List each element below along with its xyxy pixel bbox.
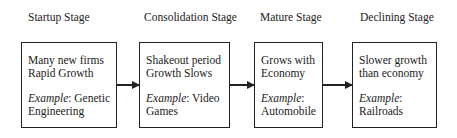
- example-label: Example: [146, 92, 186, 104]
- stage-desc-line: Many new firms: [28, 54, 116, 67]
- stage-title-consolidation: Consolidation Stage: [144, 11, 237, 23]
- stage-desc-line: Slower growth: [359, 54, 436, 67]
- stage-box-declining: Slower growth than economy Example: Rail…: [352, 42, 437, 128]
- stage-desc-line: Growth Slows: [146, 67, 229, 80]
- example-text: : Video: [186, 92, 219, 104]
- stage-desc-line: Grows with: [261, 54, 322, 67]
- stage-title-mature: Mature Stage: [260, 11, 322, 23]
- example-label: Example: [359, 92, 399, 104]
- example-text-2: Railroads: [359, 105, 436, 118]
- stage-desc-line: Economy: [261, 67, 322, 80]
- example-text: : Genetic: [68, 92, 110, 104]
- stage-title-declining: Declining Stage: [360, 11, 434, 23]
- example-text: :: [301, 92, 304, 104]
- stage-title-startup: Startup Stage: [28, 11, 90, 23]
- stage-box-consolidation: Shakeout period Growth Slows Example: Vi…: [139, 42, 230, 128]
- example-label: Example: [261, 92, 301, 104]
- stage-desc-line: than economy: [359, 67, 436, 80]
- stage-box-mature: Grows with Economy Example: Automobile: [254, 42, 323, 128]
- arrow-3: [323, 84, 352, 86]
- example-label: Example: [28, 92, 68, 104]
- example-text-2: Engineering: [28, 105, 116, 118]
- stage-desc-line: Shakeout period: [146, 54, 229, 67]
- arrow-1: [117, 84, 139, 86]
- example-text: :: [399, 92, 402, 104]
- stage-box-startup: Many new firms Rapid Growth Example: Gen…: [21, 42, 117, 128]
- example-text-2: Games: [146, 105, 229, 118]
- stage-desc-line: Rapid Growth: [28, 67, 116, 80]
- arrow-2: [230, 84, 254, 86]
- example-text-2: Automobile: [261, 105, 322, 118]
